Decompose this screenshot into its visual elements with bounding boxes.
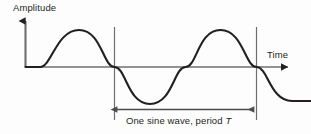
period-caption: One sine wave, period T bbox=[126, 115, 231, 126]
period-caption-text: One sine wave, period bbox=[126, 115, 225, 126]
period-symbol: T bbox=[225, 115, 231, 126]
sine-wave-canvas bbox=[0, 0, 311, 134]
y-axis-label: Amplitude bbox=[13, 2, 56, 13]
x-axis-label: Time bbox=[267, 49, 288, 60]
sine-wave-figure: Amplitude Time One sine wave, period T bbox=[0, 0, 311, 134]
